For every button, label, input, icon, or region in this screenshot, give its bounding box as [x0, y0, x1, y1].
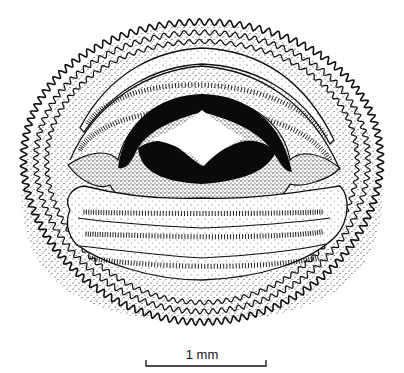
scale-bar-label: 1 mm: [170, 347, 234, 362]
oral-disc-figure: [0, 0, 404, 373]
